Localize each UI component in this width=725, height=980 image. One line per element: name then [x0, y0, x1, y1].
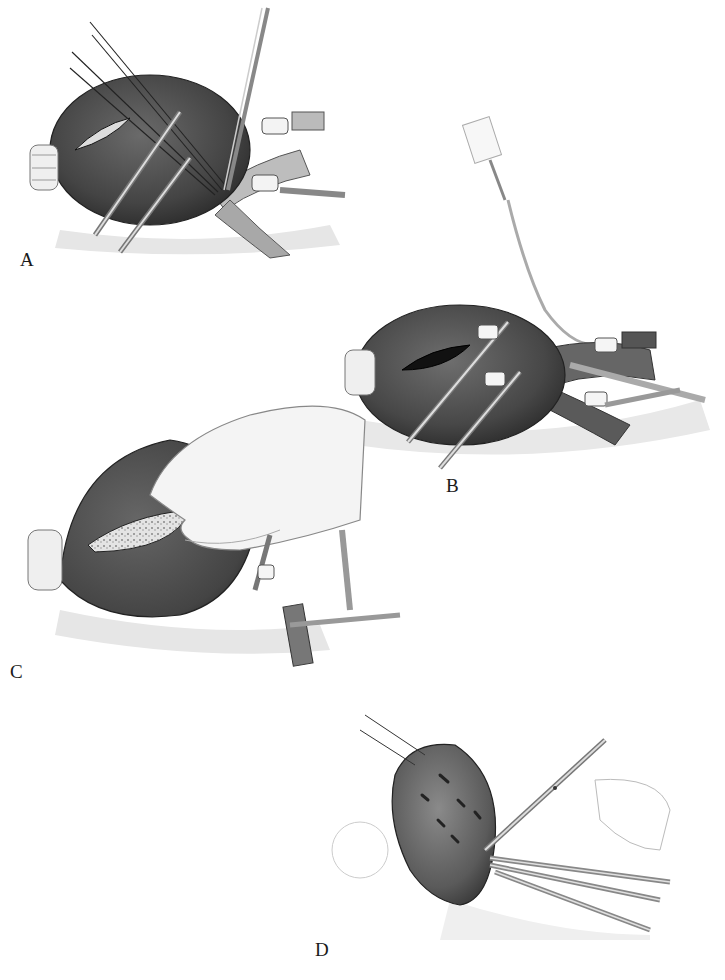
vessel-clamp: [262, 112, 324, 134]
background-outline: [595, 779, 670, 850]
panel-label-a: A: [20, 250, 34, 269]
surgeon-hand: [150, 406, 365, 550]
ligature-bundle: [30, 145, 58, 190]
vessel-clamp: [255, 530, 350, 610]
panel-label-c: C: [10, 662, 23, 681]
background-outline: [332, 822, 388, 878]
panel-d-illustration: [330, 700, 725, 940]
vessel-clamp: [585, 390, 680, 406]
panel-c-illustration: [0, 400, 410, 665]
panel-a-illustration: [0, 0, 360, 260]
scissors: [485, 740, 605, 850]
panel-label-b: B: [446, 476, 459, 495]
figure-panel-a: [0, 0, 360, 260]
panel-label-d: D: [315, 940, 329, 959]
ligature-bundle: [28, 530, 62, 590]
kidney: [50, 75, 250, 225]
ligature-bundle: [345, 350, 375, 395]
figure-panel-c: [0, 400, 410, 665]
syringe: [463, 117, 505, 200]
figure-panel-d: [330, 700, 725, 940]
renal-vessel: [283, 604, 400, 667]
